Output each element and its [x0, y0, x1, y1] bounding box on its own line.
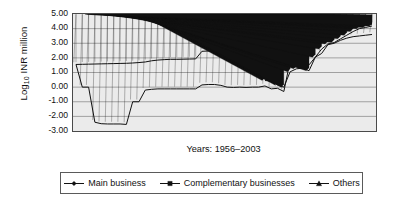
- y-axis-tick-label: 5.00: [34, 9, 68, 18]
- square-marker-icon: [159, 179, 181, 188]
- legend-item[interactable]: Complementary businesses: [159, 179, 295, 188]
- y-axis-tick-label: 1.00: [34, 67, 68, 76]
- data-point-marker: [149, 14, 151, 87]
- data-point-marker: [156, 14, 158, 86]
- chart-legend: Main businessComplementary businessesOth…: [60, 172, 363, 194]
- plot-area: [72, 13, 377, 132]
- data-point-marker: [74, 14, 76, 62]
- legend-item-label: Main business: [88, 179, 146, 188]
- y-axis-title: Log10 INR million: [18, 9, 29, 119]
- legend-marker: [72, 181, 77, 186]
- triangle-marker-icon: [308, 179, 330, 188]
- data-point-marker: [112, 14, 114, 122]
- data-point-marker: [86, 14, 88, 85]
- y-axis-tick-label: 3.00: [34, 38, 68, 47]
- legend-item[interactable]: Others: [308, 179, 360, 188]
- chart-figure: Log10 INR million 5.004.003.002.001.000.…: [0, 0, 393, 206]
- y-axis-title-subscript: 10: [22, 76, 29, 84]
- y-axis-tick-label: -1.00: [34, 96, 68, 105]
- x-axis-title: Years: 1956–2003: [72, 144, 375, 154]
- y-axis-title-base: Log: [18, 84, 29, 100]
- data-point-marker: [124, 14, 126, 122]
- y-axis-tick-label: 4.00: [34, 23, 68, 32]
- data-point-marker: [143, 14, 145, 88]
- y-axis-tick-label: 0.00: [34, 82, 68, 91]
- data-point-marker: [80, 14, 82, 85]
- legend-item-label: Complementary businesses: [184, 179, 295, 188]
- legend-item-label: Others: [333, 179, 360, 188]
- legend-marker: [168, 181, 172, 185]
- y-axis-title-rest: INR million: [18, 27, 29, 77]
- series-others: [85, 14, 372, 87]
- data-point-marker: [93, 14, 95, 120]
- y-axis-tick-label: -2.00: [34, 111, 68, 120]
- y-axis-tick-label: 2.00: [34, 53, 68, 62]
- data-point-marker: [118, 14, 120, 122]
- y-axis-tick-label: -3.00: [34, 126, 68, 135]
- diamond-marker-icon: [63, 179, 85, 188]
- data-point-marker: [105, 14, 107, 122]
- data-point-marker: [99, 14, 101, 121]
- legend-item[interactable]: Main business: [63, 179, 146, 188]
- plot-canvas: [73, 14, 376, 131]
